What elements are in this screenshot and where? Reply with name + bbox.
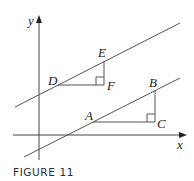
figure-caption: FIGURE 11: [13, 166, 74, 178]
right-angle-C-icon: [147, 114, 155, 122]
point-label-B: B: [149, 75, 157, 90]
point-label-F: F: [106, 78, 116, 93]
point-label-C: C: [157, 116, 166, 131]
y-axis-arrow-icon: [36, 15, 42, 23]
point-label-E: E: [97, 45, 106, 60]
x-axis-label: x: [176, 137, 183, 152]
right-angle-F-icon: [96, 77, 104, 85]
point-label-A: A: [84, 108, 93, 123]
figure-diagram: y x E D F B A C FIGURE 11: [0, 0, 194, 181]
y-axis-label: y: [26, 13, 34, 28]
point-label-D: D: [47, 73, 58, 88]
